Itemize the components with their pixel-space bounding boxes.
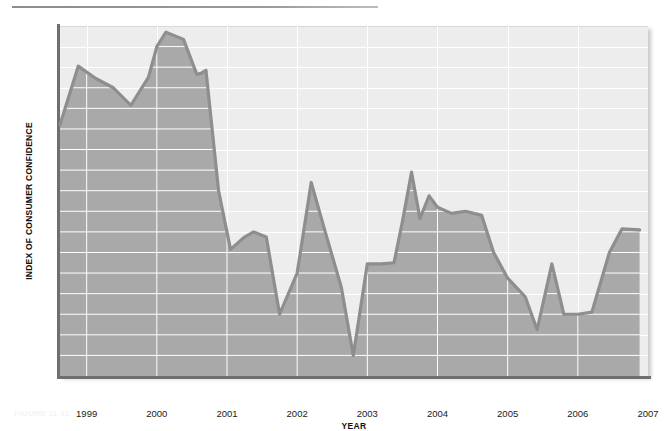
plot-area: 7880828486889092949698100102104106108110… (60, 26, 648, 376)
x-axis-line (57, 376, 651, 379)
y-axis-title: INDEX OF CONSUMER CONFIDENCE (24, 86, 34, 316)
area-fill (60, 32, 640, 376)
x-axis-title: YEAR (60, 421, 648, 431)
figure-caption: FIGURE 11-11 (14, 409, 70, 418)
consumer-confidence-area-series (60, 26, 648, 376)
x-tick-label: 2002 (267, 408, 327, 419)
x-tick-label: 2003 (337, 408, 397, 419)
x-tick-label: 2000 (127, 408, 187, 419)
top-divider-rule (12, 6, 378, 8)
x-tick-label: 2004 (407, 408, 467, 419)
x-tick-label: 2005 (478, 408, 538, 419)
x-tick-label: 2006 (548, 408, 608, 419)
x-tick-label: 2007 (618, 408, 672, 419)
x-tick-label: 2001 (197, 408, 257, 419)
